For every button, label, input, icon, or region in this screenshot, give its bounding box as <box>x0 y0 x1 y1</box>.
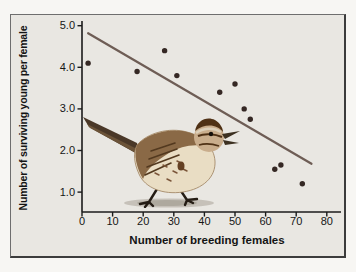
x-tick-label: 60 <box>259 215 271 227</box>
y-tick-label: 5.0 <box>60 19 75 31</box>
y-tick-label: 3.0 <box>60 102 75 114</box>
x-tick-label: 80 <box>321 215 333 227</box>
bird-beak-upper <box>222 131 240 139</box>
x-tick-label: 50 <box>229 215 241 227</box>
x-tick-label: 10 <box>106 215 118 227</box>
y-tick-label: 2.0 <box>60 144 75 156</box>
scatter-point <box>232 81 237 86</box>
bird-beak-lower <box>223 140 239 145</box>
bird-breast-blotch <box>178 162 185 171</box>
x-tick-label: 20 <box>137 215 149 227</box>
bird-eye <box>209 132 213 136</box>
scatter-point <box>174 73 179 78</box>
figure-panel: 010203040506070801.02.03.04.05.0 <box>10 14 346 258</box>
scatter-point <box>134 69 139 74</box>
x-tick-label: 30 <box>168 215 180 227</box>
scatter-point <box>85 60 90 65</box>
x-axis-title: Number of breeding females <box>82 234 332 246</box>
y-axis-title: Number of surviving young per female <box>17 18 31 218</box>
x-tick-label: 0 <box>79 215 85 227</box>
song-sparrow-illustration <box>81 103 251 208</box>
x-tick-label: 40 <box>198 215 210 227</box>
bird-tail-underside <box>87 124 138 154</box>
scatter-point <box>278 162 283 167</box>
x-tick-label: 70 <box>290 215 302 227</box>
y-tick-label: 1.0 <box>60 186 75 198</box>
scatter-point <box>300 181 305 186</box>
scatter-point <box>162 48 167 53</box>
scatter-point <box>217 90 222 95</box>
scatter-point <box>272 167 277 172</box>
y-tick-label: 4.0 <box>60 61 75 73</box>
